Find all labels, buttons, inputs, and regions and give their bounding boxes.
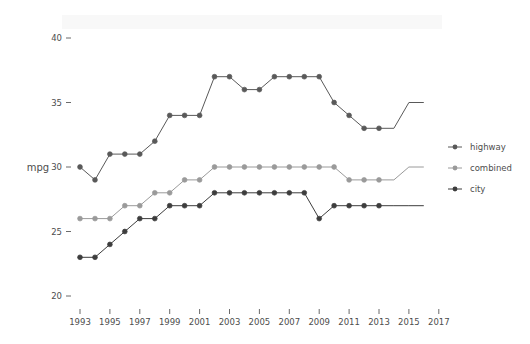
legend-label-city: city	[470, 184, 485, 194]
legend: highwaycombinedcity	[448, 142, 512, 194]
legend-marker-combined	[453, 166, 458, 171]
data-point-highway-2003[interactable]	[227, 74, 232, 79]
x-tick-label: 2003	[219, 317, 241, 327]
data-point-highway-2006[interactable]	[272, 74, 277, 79]
data-point-highway-2010[interactable]	[332, 100, 337, 105]
data-point-combined-2010[interactable]	[332, 165, 337, 170]
data-point-combined-2004[interactable]	[242, 165, 247, 170]
data-point-highway-2013[interactable]	[377, 126, 382, 131]
data-point-combined-2012[interactable]	[362, 178, 367, 183]
data-point-combined-1993[interactable]	[78, 216, 83, 221]
data-point-combined-2000[interactable]	[182, 178, 187, 183]
data-point-highway-1997[interactable]	[137, 152, 142, 157]
y-tick-label: 20	[51, 291, 62, 301]
data-point-city-2003[interactable]	[227, 190, 232, 195]
data-point-highway-2000[interactable]	[182, 113, 187, 118]
data-point-highway-1999[interactable]	[167, 113, 172, 118]
x-tick-label: 2009	[308, 317, 330, 327]
data-point-city-2013[interactable]	[377, 203, 382, 208]
x-tick-label: 2015	[398, 317, 420, 327]
x-tick-label: 1993	[69, 317, 91, 327]
data-point-city-1999[interactable]	[167, 203, 172, 208]
data-point-city-2011[interactable]	[347, 203, 352, 208]
legend-item-city[interactable]: city	[448, 184, 485, 194]
data-point-city-2012[interactable]	[362, 203, 367, 208]
data-point-combined-2003[interactable]	[227, 165, 232, 170]
data-point-city-2009[interactable]	[317, 216, 322, 221]
y-tick-label: 40	[51, 33, 62, 43]
top-artifact-strip	[62, 15, 442, 29]
chart-canvas: 2025303540mpg199319951997199920012003200…	[0, 0, 530, 344]
data-point-highway-2007[interactable]	[287, 74, 292, 79]
data-point-combined-1994[interactable]	[93, 216, 98, 221]
y-axis-ticks: 2025303540	[51, 33, 71, 301]
y-tick-label: 30	[51, 162, 62, 172]
data-point-city-1993[interactable]	[78, 255, 83, 260]
data-point-city-1994[interactable]	[93, 255, 98, 260]
series-city	[78, 190, 424, 259]
series-line-highway	[80, 77, 424, 180]
data-point-city-2006[interactable]	[272, 190, 277, 195]
data-point-highway-1995[interactable]	[108, 152, 113, 157]
data-point-city-1996[interactable]	[122, 229, 127, 234]
data-point-combined-1995[interactable]	[108, 216, 113, 221]
data-point-combined-2005[interactable]	[257, 165, 262, 170]
data-point-highway-2001[interactable]	[197, 113, 202, 118]
data-point-highway-1998[interactable]	[152, 139, 157, 144]
data-point-city-2000[interactable]	[182, 203, 187, 208]
series-line-city	[80, 193, 424, 257]
series-highway	[78, 74, 424, 182]
legend-marker-highway	[453, 145, 458, 150]
data-point-highway-2004[interactable]	[242, 87, 247, 92]
x-tick-label: 1995	[99, 317, 121, 327]
x-axis-ticks: 1993199519971999200120032005200720092011…	[69, 309, 449, 327]
data-point-city-2001[interactable]	[197, 203, 202, 208]
x-tick-label: 1999	[159, 317, 181, 327]
data-point-city-2005[interactable]	[257, 190, 262, 195]
data-point-highway-1993[interactable]	[78, 165, 83, 170]
data-point-combined-2013[interactable]	[377, 178, 382, 183]
data-point-combined-2006[interactable]	[272, 165, 277, 170]
data-point-city-2008[interactable]	[302, 190, 307, 195]
y-axis-title: mpg	[27, 162, 49, 173]
data-point-combined-2001[interactable]	[197, 178, 202, 183]
x-tick-label: 2001	[189, 317, 211, 327]
data-point-combined-2008[interactable]	[302, 165, 307, 170]
data-point-city-2002[interactable]	[212, 190, 217, 195]
data-point-city-2010[interactable]	[332, 203, 337, 208]
data-point-combined-1997[interactable]	[137, 203, 142, 208]
data-point-combined-1999[interactable]	[167, 190, 172, 195]
mpg-line-chart: 2025303540mpg199319951997199920012003200…	[0, 0, 530, 344]
data-point-city-1998[interactable]	[152, 216, 157, 221]
data-point-highway-2012[interactable]	[362, 126, 367, 131]
data-point-city-1995[interactable]	[108, 242, 113, 247]
x-tick-label: 2013	[368, 317, 390, 327]
legend-label-combined: combined	[470, 163, 512, 173]
data-point-highway-1994[interactable]	[93, 178, 98, 183]
data-point-highway-1996[interactable]	[122, 152, 127, 157]
y-tick-label: 25	[51, 227, 62, 237]
data-point-city-2004[interactable]	[242, 190, 247, 195]
x-tick-label: 1997	[129, 317, 151, 327]
data-point-highway-2009[interactable]	[317, 74, 322, 79]
x-tick-label: 2011	[338, 317, 360, 327]
x-tick-label: 2005	[249, 317, 271, 327]
legend-item-combined[interactable]: combined	[448, 163, 512, 173]
y-tick-label: 35	[51, 98, 62, 108]
data-point-highway-2005[interactable]	[257, 87, 262, 92]
legend-item-highway[interactable]: highway	[448, 142, 506, 152]
data-point-combined-1998[interactable]	[152, 190, 157, 195]
legend-marker-city	[453, 187, 458, 192]
data-point-combined-1996[interactable]	[122, 203, 127, 208]
data-point-city-1997[interactable]	[137, 216, 142, 221]
data-point-combined-2011[interactable]	[347, 178, 352, 183]
data-point-city-2007[interactable]	[287, 190, 292, 195]
legend-label-highway: highway	[470, 142, 506, 152]
data-point-combined-2009[interactable]	[317, 165, 322, 170]
data-point-highway-2008[interactable]	[302, 74, 307, 79]
data-point-combined-2007[interactable]	[287, 165, 292, 170]
data-point-highway-2002[interactable]	[212, 74, 217, 79]
data-point-combined-2002[interactable]	[212, 165, 217, 170]
x-tick-label: 2007	[278, 317, 300, 327]
data-point-highway-2011[interactable]	[347, 113, 352, 118]
